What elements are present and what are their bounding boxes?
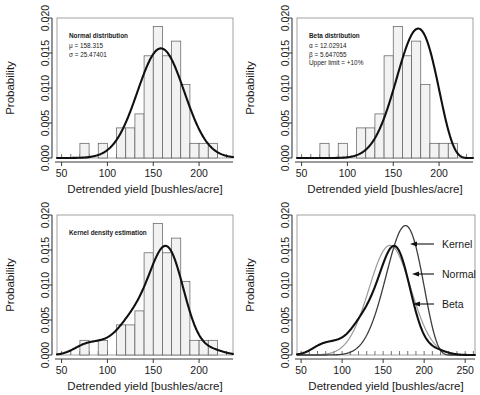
svg-text:150: 150 — [374, 364, 392, 376]
svg-text:0.020: 0.020 — [39, 202, 51, 228]
y-axis-title: Probability — [244, 61, 256, 115]
svg-text:50: 50 — [295, 364, 307, 376]
annotation-line: μ = 158.315 — [69, 42, 104, 50]
svg-text:0.000: 0.000 — [279, 342, 291, 368]
svg-text:0.015: 0.015 — [39, 237, 51, 263]
svg-text:0.005: 0.005 — [279, 110, 291, 136]
annotation-title: Beta distribution — [309, 32, 360, 39]
annotation-line: β = 5.647055 — [309, 51, 347, 59]
svg-text:100: 100 — [333, 364, 351, 376]
svg-text:0.010: 0.010 — [279, 272, 291, 298]
svg-text:0.010: 0.010 — [39, 272, 51, 298]
annotation-line: Upper limit = +10% — [309, 59, 364, 67]
x-axis-title: Detrended yield [bushles/acre] — [308, 380, 463, 392]
svg-text:50: 50 — [56, 167, 68, 179]
svg-text:0.015: 0.015 — [279, 40, 291, 66]
x-axis-title: Detrended yield [bushles/acre] — [307, 183, 462, 195]
svg-text:0.020: 0.020 — [279, 202, 291, 228]
x-axis-title: Detrended yield [bushles/acre] — [67, 183, 222, 195]
svg-text:100: 100 — [99, 364, 117, 376]
svg-text:50: 50 — [56, 364, 68, 376]
svg-text:0.000: 0.000 — [279, 145, 291, 171]
svg-text:200: 200 — [190, 364, 208, 376]
svg-text:150: 150 — [144, 364, 162, 376]
svg-text:100: 100 — [99, 167, 117, 179]
annotation-title: Normal distribution — [69, 32, 128, 39]
svg-text:0.005: 0.005 — [39, 110, 51, 136]
svg-text:150: 150 — [144, 167, 162, 179]
annotation-title: Kernel density estimation — [69, 229, 147, 237]
svg-text:150: 150 — [384, 167, 402, 179]
svg-text:Normal: Normal — [442, 268, 476, 280]
svg-text:0.015: 0.015 — [39, 40, 51, 66]
svg-text:0.010: 0.010 — [279, 75, 291, 101]
svg-text:0.005: 0.005 — [39, 307, 51, 333]
svg-text:200: 200 — [430, 167, 448, 179]
chart-beta: 501001502000.0000.0050.0100.0150.020Beta… — [240, 0, 480, 197]
y-axis-title: Probability — [244, 258, 256, 312]
svg-text:50: 50 — [296, 167, 308, 179]
x-axis-title: Detrended yield [bushles/acre] — [67, 380, 222, 392]
svg-text:0.015: 0.015 — [279, 237, 291, 263]
curve-label-kernel: Kernel — [410, 238, 472, 250]
y-axis-title: Probability — [4, 258, 16, 312]
svg-text:0.020: 0.020 — [279, 5, 291, 31]
svg-text:0.010: 0.010 — [39, 75, 51, 101]
annotation-line: α = 12.02914 — [309, 42, 347, 49]
svg-text:Kernel: Kernel — [442, 238, 472, 250]
svg-text:0.005: 0.005 — [279, 307, 291, 333]
svg-text:250: 250 — [456, 364, 474, 376]
svg-text:0.000: 0.000 — [39, 145, 51, 171]
figure-panel-grid: 501001502000.0000.0050.0100.0150.020Norm… — [0, 0, 480, 395]
y-axis-title: Probability — [4, 61, 16, 115]
svg-text:Beta: Beta — [442, 298, 464, 310]
histogram-bars — [80, 223, 218, 355]
svg-text:200: 200 — [415, 364, 433, 376]
panel-normal-distribution: 501001502000.0000.0050.0100.0150.020Norm… — [0, 0, 240, 197]
panel-beta-distribution: 501001502000.0000.0050.0100.0150.020Beta… — [240, 0, 480, 197]
svg-text:200: 200 — [190, 167, 208, 179]
curve-label-beta: Beta — [413, 298, 464, 310]
panel-kernel-density: 501001502000.0000.0050.0100.0150.020Kern… — [0, 197, 240, 394]
chart-kernel: 501001502000.0000.0050.0100.0150.020Kern… — [0, 197, 240, 394]
chart-comparison: 501001502002500.0000.0050.0100.0150.020K… — [240, 197, 480, 394]
annotation-line: σ = 25.47401 — [69, 51, 107, 58]
panel-comparison: 501001502002500.0000.0050.0100.0150.020K… — [240, 197, 480, 394]
chart-normal: 501001502000.0000.0050.0100.0150.020Norm… — [0, 0, 240, 197]
svg-text:0.000: 0.000 — [39, 342, 51, 368]
svg-text:0.020: 0.020 — [39, 5, 51, 31]
svg-text:100: 100 — [339, 167, 357, 179]
